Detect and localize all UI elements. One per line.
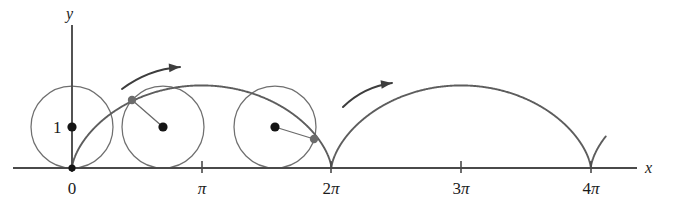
tracing-point-dot <box>128 96 136 104</box>
radius-line <box>132 100 163 127</box>
cycloid-figure: y x 1 0π2π3π4π <box>0 0 675 205</box>
tracing-point-dot <box>68 164 75 171</box>
tracing-point-dot <box>310 135 318 143</box>
circle-center-dot <box>158 122 167 131</box>
cycloid-curve-group <box>72 85 606 168</box>
y-axis-label: y <box>66 6 73 22</box>
x-axis-tick-label: 4π <box>582 180 599 197</box>
cycloid-diagram-svg <box>0 0 675 205</box>
cycloid-curve <box>72 85 606 168</box>
x-axis-label: x <box>645 160 652 176</box>
circle-center-dot <box>67 122 76 131</box>
x-axis-tick-label: 2π <box>322 180 339 197</box>
x-axis-tick-label: 0 <box>68 180 77 197</box>
arrow-head-icon <box>381 80 392 89</box>
circle-center-dot <box>270 122 279 131</box>
x-axis-ticks <box>202 161 591 173</box>
marker-dots-group <box>67 96 318 172</box>
x-axis-tick-label: π <box>198 180 207 197</box>
direction-arrows-group <box>122 64 392 107</box>
radius-value-label: 1 <box>53 119 62 136</box>
x-axis-tick-label: 3π <box>452 180 469 197</box>
radius-line <box>275 127 314 139</box>
